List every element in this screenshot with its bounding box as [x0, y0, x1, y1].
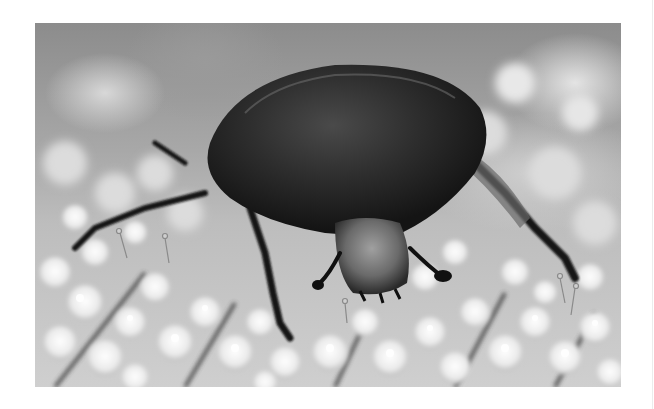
beetle	[35, 23, 621, 387]
beetle-photograph	[35, 23, 621, 387]
page-edge-divider	[652, 0, 653, 409]
